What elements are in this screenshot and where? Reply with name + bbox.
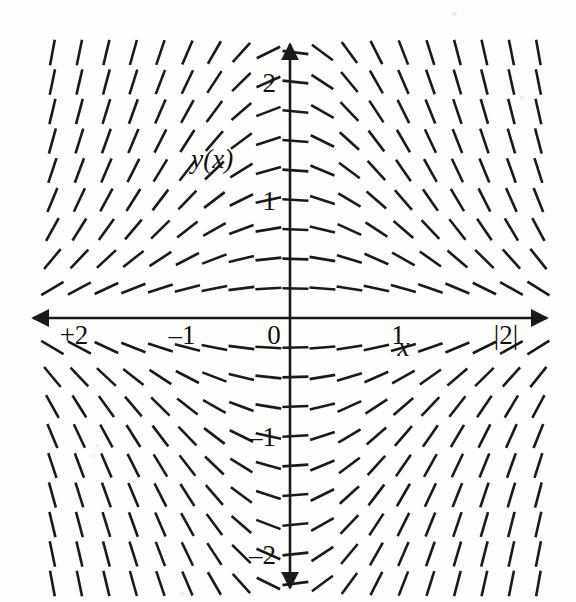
slope-segment [102, 483, 111, 507]
slope-segment [283, 51, 309, 54]
slope-segment [310, 403, 335, 409]
slope-segment [130, 40, 137, 65]
slope-segment [527, 341, 549, 355]
slope-segment [530, 367, 546, 387]
slope-segment [369, 101, 383, 123]
slope-segment [49, 99, 55, 124]
slope-segment [103, 69, 110, 94]
y-tick-label-neg2: –2 [248, 540, 276, 570]
slope-segment [364, 345, 389, 351]
slope-segment [282, 377, 308, 378]
slope-segment [340, 132, 359, 149]
slope-segment [208, 41, 221, 63]
slope-segment [337, 255, 362, 262]
slope-segment [311, 105, 334, 118]
slope-segment [256, 227, 282, 231]
slope-segment [282, 140, 308, 142]
slope-segment [207, 514, 223, 535]
slope-segment [536, 541, 541, 567]
slope-segment [76, 483, 84, 508]
slope-segment [475, 368, 494, 386]
slope-segment [368, 456, 386, 475]
slope-segment [535, 482, 542, 507]
slope-segment [182, 70, 193, 93]
slope-segment [229, 287, 255, 290]
slope-segment [48, 453, 56, 478]
slope-segment [507, 453, 516, 477]
slope-segment [392, 371, 415, 384]
slope-segment [101, 454, 111, 478]
slope-segment [46, 218, 59, 241]
slope-segment [229, 402, 253, 411]
slope-segment [230, 164, 252, 178]
slope-segment [475, 250, 494, 268]
slope-segment [340, 102, 358, 121]
slope-segment [46, 395, 59, 418]
slope-segment [426, 542, 435, 567]
slope-segment [371, 41, 383, 64]
slope-segment [536, 512, 542, 537]
slope-segment [76, 541, 82, 566]
slope-segment [342, 42, 357, 63]
slope-segment [425, 129, 436, 153]
slope-segment [76, 69, 82, 94]
slope-segment [367, 191, 387, 208]
slope-segment [71, 368, 89, 387]
slope-segment [123, 369, 143, 385]
slope-segment [509, 571, 514, 597]
slope-segment [364, 372, 388, 382]
slope-segment [130, 571, 137, 596]
slope-segment [368, 161, 386, 180]
slope-segment [99, 219, 114, 240]
slope-segment [508, 483, 515, 508]
slope-segment [370, 543, 383, 566]
slope-segment [445, 283, 469, 293]
slope-segment [505, 395, 518, 417]
slope-segment [71, 250, 89, 269]
slope-segment [503, 367, 520, 386]
slope-segment [155, 513, 165, 537]
slope-segment [68, 282, 91, 294]
slope-segment [150, 252, 172, 266]
slope-segment [481, 541, 487, 566]
slope-segment [207, 71, 221, 93]
slope-segment [369, 485, 385, 506]
slope-segment [422, 220, 440, 239]
slope-segment [337, 287, 363, 291]
slope-segment [420, 369, 441, 384]
slope-segment [477, 396, 492, 418]
slope-segment [230, 459, 252, 473]
slope-segment [182, 572, 192, 596]
slope-segment [311, 518, 334, 531]
slope-segment [41, 282, 63, 295]
slope-segment [256, 520, 280, 529]
slope-segment [312, 75, 334, 89]
slope-segment [500, 282, 523, 295]
slope-segment [341, 544, 358, 564]
slope-segment [151, 397, 170, 415]
slope-segment [535, 128, 542, 153]
slope-segment [536, 99, 542, 124]
slope-segment [128, 159, 140, 182]
slope-segment [449, 396, 465, 416]
slope-segment [310, 226, 335, 232]
slope-segment [73, 395, 87, 417]
slope-segment [427, 571, 435, 596]
slope-segment [231, 487, 252, 502]
slope-segment [256, 107, 280, 116]
slope-segment [50, 571, 55, 597]
slope-segment [310, 432, 335, 440]
slope-segment [338, 429, 360, 442]
slope-segment [129, 512, 138, 536]
slope-segment [453, 483, 463, 507]
slope-segment [480, 483, 488, 508]
slope-segment [397, 130, 410, 152]
slope-segment [50, 541, 55, 566]
slope-segment [310, 375, 336, 379]
slope-segment [49, 128, 56, 153]
slope-segment [338, 401, 362, 412]
slope-segment [156, 40, 164, 65]
x-axis-label: x [396, 332, 409, 362]
slope-segment [339, 458, 360, 474]
slope-segment [398, 100, 410, 123]
